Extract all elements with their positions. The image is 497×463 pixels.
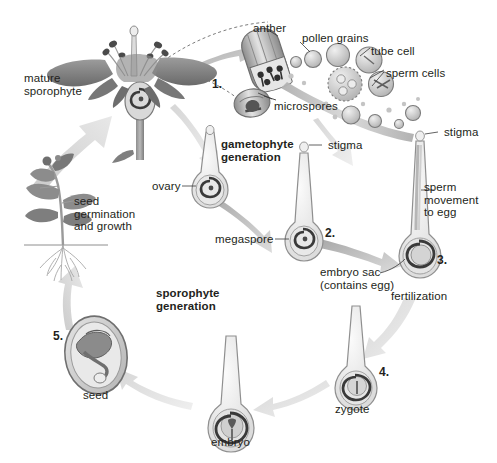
label-stigma-right: stigma (444, 126, 478, 139)
label-mature-sporophyte: mature sporophyte (24, 72, 82, 97)
label-sporophyte-generation: sporophyte generation (156, 287, 220, 312)
life-cycle-diagram: mature sporophyte anther pollen grains t… (0, 0, 497, 463)
label-megaspore: megaspore (215, 233, 273, 246)
label-step-3: 3. (437, 254, 447, 267)
label-microspores: microspores (274, 100, 338, 113)
label-zygote: zygote (335, 403, 369, 416)
carpel-zygote (335, 306, 377, 410)
label-stigma-left: stigma (328, 139, 362, 152)
label-step-4: 4. (379, 366, 389, 379)
label-sperm-cells: sperm cells (386, 67, 445, 80)
label-anther: anther (253, 22, 286, 35)
label-step-1: 1. (212, 78, 222, 91)
label-tube-cell: tube cell (371, 45, 415, 58)
label-gametophyte-generation: gametophyte generation (221, 138, 294, 163)
arrow-fertilization-to-zygote (363, 298, 415, 359)
label-embryo-sac: embryo sac (contains egg) (320, 266, 394, 291)
label-sperm-movement-to-egg: sperm movement to egg (424, 181, 479, 219)
label-pollen-grains: pollen grains (302, 32, 369, 45)
carpel-embryo (208, 336, 254, 452)
label-embryo: embryo (211, 436, 250, 449)
arrow-embryo-to-seed (116, 368, 193, 410)
label-ovary: ovary (152, 180, 181, 193)
label-fertilization: fertilization (391, 290, 447, 303)
label-step-5: 5. (53, 330, 63, 343)
label-step-2: 2. (325, 227, 335, 240)
label-seed: seed (83, 389, 108, 402)
label-seed-germination-and-growth: seed germination and growth (74, 195, 135, 233)
arrow-zygote-to-embryo (253, 380, 330, 417)
